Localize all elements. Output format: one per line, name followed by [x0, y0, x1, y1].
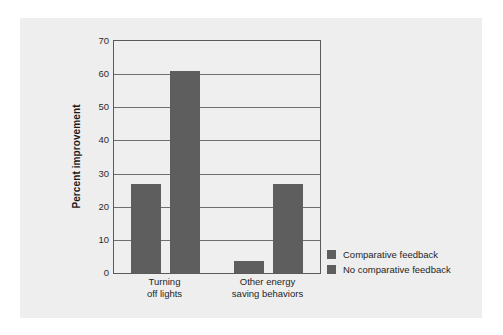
y-axis-tick-label: 10 [98, 235, 109, 245]
y-axis-tick-label: 70 [98, 36, 109, 46]
y-axis-tick-label: 40 [98, 136, 109, 146]
gridline [114, 107, 320, 108]
legend-item[interactable]: No comparative feedback [327, 265, 451, 275]
gridline [114, 140, 320, 141]
chart-legend: Comparative feedback No comparative feed… [327, 250, 451, 279]
y-axis-title-text: Percent improvement [71, 104, 82, 208]
legend-item-label: No comparative feedback [343, 265, 451, 275]
legend-item[interactable]: Comparative feedback [327, 250, 451, 260]
legend-swatch-icon [327, 265, 336, 274]
x-axis-category-label: Other energy saving behaviors [208, 276, 328, 300]
bar [273, 184, 303, 273]
y-axis-tick-label: 30 [98, 169, 109, 179]
bar [234, 261, 264, 273]
legend-swatch-icon [327, 250, 336, 259]
y-axis-title: Percent improvement [68, 40, 84, 272]
gridline [114, 74, 320, 75]
plot-area: 010203040506070 [113, 40, 321, 274]
y-axis-tick-label: 20 [98, 202, 109, 212]
bar [131, 184, 161, 273]
y-axis-tick-label: 50 [98, 103, 109, 113]
gridline [114, 174, 320, 175]
x-axis-category-label: Turning off lights [105, 276, 225, 300]
bar [170, 71, 200, 273]
chart-figure: Percent improvement 010203040506070 Comp… [20, 18, 482, 318]
legend-item-label: Comparative feedback [343, 250, 438, 260]
y-axis-tick-label: 60 [98, 69, 109, 79]
